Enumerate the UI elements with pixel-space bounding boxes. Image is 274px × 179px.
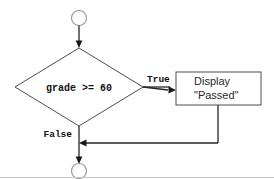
edge-label-false: False [43, 129, 72, 140]
edge-label-true: True [147, 74, 170, 85]
process-node-line1: Display [194, 75, 231, 87]
flowchart-svg: grade >= 60 True Display "Passed" False [0, 0, 274, 179]
decision-node-label: grade >= 60 [46, 83, 112, 94]
start-connector [72, 11, 87, 26]
arrowhead-into-decision [76, 41, 83, 49]
process-node-line2: "Passed" [194, 89, 239, 101]
flowchart-canvas: grade >= 60 True Display "Passed" False [0, 0, 274, 179]
arrowhead-into-process [169, 87, 177, 94]
end-connector [72, 164, 87, 179]
arrowhead-into-end [76, 157, 83, 165]
arrowhead-into-merge [79, 140, 87, 147]
